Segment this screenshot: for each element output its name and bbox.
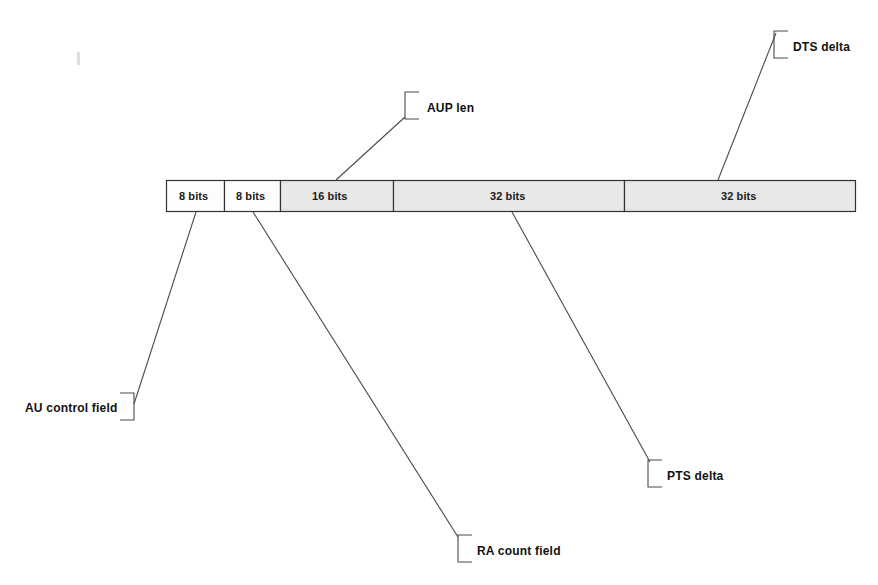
leader-line-pts-delta — [512, 212, 650, 462]
callout-label-dts-delta: DTS delta — [793, 41, 850, 53]
callout-pts-delta — [512, 212, 662, 487]
callout-bracket-pts-delta — [648, 460, 662, 487]
segment-label-2: 16 bits — [312, 191, 348, 202]
callout-label-au-control-field: AU control field — [25, 402, 118, 414]
leader-line-ra-count-field — [253, 212, 458, 537]
segment-label-1: 8 bits — [236, 191, 265, 202]
callout-label-aup-len: AUP len — [427, 102, 474, 114]
leader-line-dts-delta — [718, 33, 776, 180]
diagram-canvas: 8 bits8 bits16 bits32 bits32 bitsAU cont… — [0, 0, 878, 585]
segment-label-0: 8 bits — [179, 191, 208, 202]
callout-aup-len — [336, 92, 419, 180]
segment-label-4: 32 bits — [721, 191, 757, 202]
callout-label-ra-count-field: RA count field — [477, 545, 561, 557]
leader-line-au-control-field — [134, 212, 196, 404]
callout-bracket-au-control-field — [120, 393, 134, 420]
callout-bracket-ra-count-field — [458, 535, 472, 562]
callout-ra-count-field — [253, 212, 472, 562]
callout-au-control-field — [120, 212, 196, 420]
diagram-vector-layer — [0, 0, 878, 585]
leader-line-aup-len — [336, 117, 405, 180]
callout-dts-delta — [718, 31, 788, 180]
callout-bracket-aup-len — [405, 92, 419, 119]
callout-label-pts-delta: PTS delta — [667, 470, 723, 482]
callout-bracket-dts-delta — [774, 31, 788, 58]
segment-label-3: 32 bits — [490, 191, 526, 202]
